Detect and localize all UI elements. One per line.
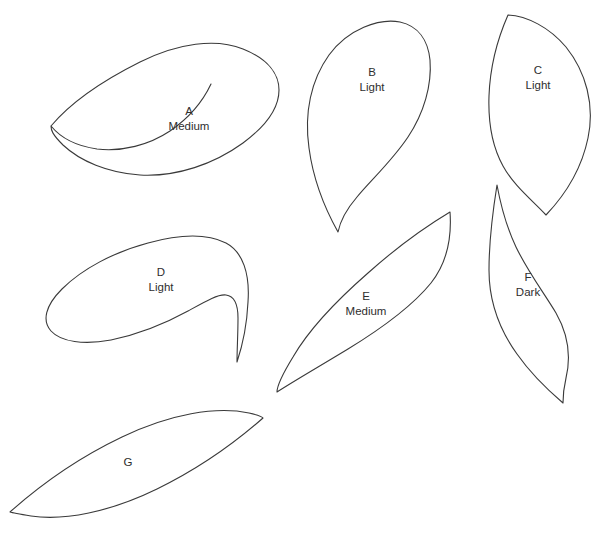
piece-e-fabric: Medium — [346, 305, 387, 317]
piece-a-outline[interactable] — [51, 43, 279, 175]
pattern-piece-a[interactable]: A Medium — [51, 43, 279, 175]
pattern-piece-g[interactable]: G — [10, 411, 263, 518]
piece-b-letter: B — [368, 66, 376, 78]
piece-g-outline[interactable] — [10, 411, 263, 518]
piece-e-letter: E — [362, 290, 370, 302]
pattern-piece-b[interactable]: B Light — [307, 21, 430, 232]
piece-b-fabric: Light — [360, 81, 386, 93]
piece-c-fabric: Light — [526, 79, 552, 91]
piece-d-outline[interactable] — [46, 236, 248, 362]
piece-f-letter: F — [524, 271, 531, 283]
piece-g-letter: G — [124, 456, 133, 468]
pattern-piece-f[interactable]: F Dark — [489, 185, 568, 403]
pattern-sheet: A Medium B Light C Light D Light E Mediu… — [0, 0, 603, 535]
piece-a-fabric: Medium — [169, 120, 210, 132]
pattern-piece-c[interactable]: C Light — [489, 15, 590, 215]
piece-e-outline[interactable] — [277, 212, 450, 392]
piece-c-letter: C — [534, 64, 542, 76]
piece-d-letter: D — [157, 266, 165, 278]
piece-b-outline[interactable] — [307, 21, 430, 232]
pattern-piece-d[interactable]: D Light — [46, 236, 248, 362]
piece-d-fabric: Light — [149, 281, 175, 293]
piece-f-fabric: Dark — [516, 286, 541, 298]
piece-c-outline[interactable] — [489, 15, 590, 215]
pattern-shapes-canvas: A Medium B Light C Light D Light E Mediu… — [0, 0, 603, 535]
pattern-piece-e[interactable]: E Medium — [277, 212, 450, 392]
piece-a-letter: A — [185, 105, 193, 117]
